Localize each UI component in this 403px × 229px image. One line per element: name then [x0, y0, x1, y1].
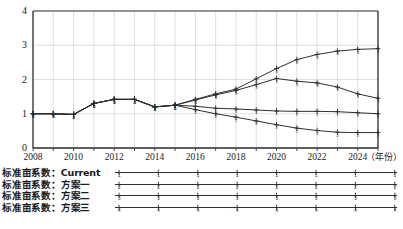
series-point-label: 2: [276, 125, 279, 130]
legend-sample-marker-label: 1: [315, 173, 318, 178]
chart-legend: 标准亩系数：Current11111111标准亩系数：方案一22222222标准…: [0, 167, 403, 217]
series-point-label: 2: [296, 129, 299, 134]
series-3: 333333333333333333: [31, 76, 381, 120]
legend-item-label: 标准亩系数：Current: [2, 167, 100, 178]
legend-sample-marker-label: 1: [197, 173, 200, 178]
legend-sample-marker-label: 3: [197, 196, 200, 201]
y-tick-label: 2: [7, 75, 27, 85]
legend-item[interactable]: 标准亩系数：方案二33333333: [0, 190, 403, 201]
legend-sample-marker-label: 4: [354, 208, 357, 213]
legend-sample-marker-label: 4: [118, 208, 121, 213]
x-tick-label: 2014: [138, 152, 172, 162]
series-point-label: 3: [377, 99, 380, 104]
legend-sample-marker-label: 1: [276, 173, 279, 178]
series-2: 222222222222222222: [31, 97, 381, 138]
series-point-label: 4: [154, 107, 157, 112]
legend-sample-marker-label: 1: [157, 173, 160, 178]
legend-sample-marker-label: 3: [315, 196, 318, 201]
series-point-label: 4: [174, 106, 177, 111]
legend-sample-marker-label: 2: [197, 185, 200, 190]
figure-caption: [0, 219, 403, 229]
series-point-label: 4: [113, 100, 116, 105]
line-chart-canvas: 1111111111111111112222222222222222223333…: [0, 0, 403, 160]
legend-sample-marker-label: 4: [315, 208, 318, 213]
legend-sample-marker-label: 2: [315, 185, 318, 190]
legend-item-sample-line: 33333333: [113, 190, 398, 201]
legend-sample-marker-label: 2: [354, 185, 357, 190]
series-point-label: 1: [336, 112, 339, 117]
legend-sample-marker-label: 2: [118, 185, 121, 190]
x-tick-label: 2012: [97, 152, 131, 162]
series-point-label: 1: [296, 112, 299, 117]
legend-sample-marker-label: 2: [276, 185, 279, 190]
x-tick-label: 2010: [57, 152, 91, 162]
series-point-label: 1: [215, 109, 218, 114]
series-point-label: 4: [194, 100, 197, 105]
x-tick-label: 2022: [300, 152, 334, 162]
x-tick-label: 2018: [219, 152, 253, 162]
series-point-label: 2: [357, 133, 360, 138]
series-point-label: 2: [194, 110, 197, 115]
legend-sample-marker-label: 2: [157, 185, 160, 190]
legend-sample-marker-label: 3: [157, 196, 160, 201]
series-point-label: 4: [93, 104, 96, 109]
series-point-label: 2: [255, 121, 258, 126]
series-line: [33, 49, 378, 115]
legend-sample-marker-label: 4: [236, 208, 239, 213]
series-point-label: 4: [316, 55, 319, 60]
legend-sample-marker-label: 3: [394, 196, 397, 201]
series-point-label: 3: [357, 94, 360, 99]
legend-item-sample-line: 11111111: [113, 167, 398, 178]
chart-plot-area: 1111111111111111112222222222222222223333…: [0, 0, 403, 160]
series-point-label: 1: [377, 114, 380, 119]
series-4: 444444444444444444: [31, 46, 381, 120]
series-point-label: 4: [276, 69, 279, 74]
legend-sample-marker-label: 3: [236, 196, 239, 201]
figure-root: 1111111111111111112222222222222222223333…: [0, 0, 403, 229]
legend-sample-marker-label: 4: [157, 208, 160, 213]
series-point-label: 4: [255, 79, 258, 84]
series-point-label: 3: [255, 85, 258, 90]
series-point-label: 4: [296, 60, 299, 65]
y-tick-label: 4: [7, 6, 27, 16]
series-point-label: 4: [336, 51, 339, 56]
series-point-label: 4: [73, 115, 76, 120]
legend-item-sample-line: 44444444: [113, 202, 398, 213]
series-point-label: 1: [255, 110, 258, 115]
series-point-label: 4: [357, 50, 360, 55]
series-point-label: 4: [52, 114, 55, 119]
x-tick-label: 2016: [178, 152, 212, 162]
series-1: 111111111111111111: [31, 97, 381, 120]
legend-sample-marker-label: 3: [354, 196, 357, 201]
series-point-label: 2: [235, 118, 238, 123]
legend-sample-marker-label: 1: [394, 173, 397, 178]
legend-sample-marker-label: 2: [236, 185, 239, 190]
series-point-label: 2: [316, 131, 319, 136]
legend-sample-marker-label: 3: [118, 196, 121, 201]
y-tick-label: 1: [7, 109, 27, 119]
legend-sample-marker-label: 1: [118, 173, 121, 178]
legend-sample-marker-label: 3: [276, 196, 279, 201]
legend-item-sample-line: 22222222: [113, 179, 398, 190]
series-point-label: 2: [215, 114, 218, 119]
series-point-label: 3: [336, 87, 339, 92]
series-point-label: 1: [316, 112, 319, 117]
legend-sample-marker-label: 4: [394, 208, 397, 213]
legend-item-label: 标准亩系数：方案一: [2, 179, 90, 190]
legend-item-label: 标准亩系数：方案二: [2, 190, 90, 201]
x-tick-label: 2020: [260, 152, 294, 162]
y-tick-label: 3: [7, 40, 27, 50]
series-point-label: 2: [377, 133, 380, 138]
legend-sample-marker-label: 4: [276, 208, 279, 213]
legend-item[interactable]: 标准亩系数：方案一22222222: [0, 179, 403, 190]
legend-item-label: 标准亩系数：方案三: [2, 202, 90, 213]
x-tick-label: 2008: [16, 152, 50, 162]
series-point-label: 3: [296, 82, 299, 87]
series-point-label: 4: [133, 100, 136, 105]
legend-item[interactable]: 标准亩系数：方案三44444444: [0, 202, 403, 213]
series-point-label: 3: [316, 83, 319, 88]
legend-item[interactable]: 标准亩系数：Current11111111: [0, 167, 403, 178]
legend-sample-marker-label: 1: [354, 173, 357, 178]
legend-sample-marker-label: 1: [236, 173, 239, 178]
legend-sample-marker-label: 2: [394, 185, 397, 190]
